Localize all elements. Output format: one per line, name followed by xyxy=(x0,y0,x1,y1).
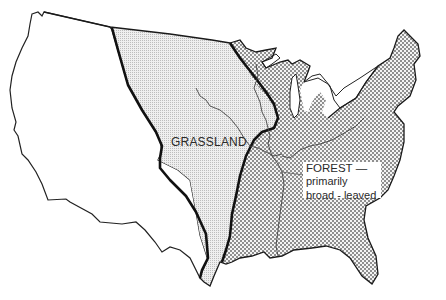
forest-label-line3: broad - leaved xyxy=(306,190,376,201)
vegetation-map: GRASSLAND FOREST — primarily broad - lea… xyxy=(0,0,446,300)
grassland-label: GRASSLAND xyxy=(171,136,247,148)
forest-label-line1: FOREST — xyxy=(306,163,367,175)
forest-label-line2: primarily xyxy=(306,176,348,187)
forest-region xyxy=(220,30,420,284)
us-vegetation-map-svg xyxy=(0,0,446,300)
